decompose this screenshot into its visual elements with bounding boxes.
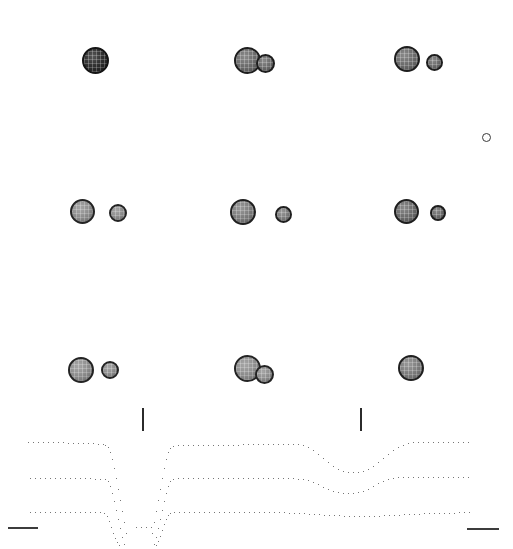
trace-dot xyxy=(116,510,117,511)
particle-sphere xyxy=(394,46,420,72)
particle-sphere xyxy=(394,199,419,224)
trace-dot xyxy=(408,477,409,478)
trace-dot xyxy=(178,478,179,479)
trace-dot xyxy=(164,524,165,525)
trace-dot xyxy=(459,512,460,513)
trace-dot xyxy=(83,443,84,444)
trace-dot xyxy=(398,477,399,478)
trace-dot xyxy=(279,512,280,513)
particle-sphere xyxy=(68,357,94,383)
trace-dot xyxy=(274,512,275,513)
trace-dot xyxy=(30,512,31,513)
trace-dot xyxy=(443,442,444,443)
trace-dot xyxy=(160,519,161,520)
trace-dot xyxy=(374,516,375,517)
trace-dot xyxy=(115,538,116,539)
trace-dot xyxy=(108,447,109,448)
trace-dot xyxy=(458,442,459,443)
trace-dot xyxy=(239,512,240,513)
trace-dot xyxy=(444,513,445,514)
trace-dot xyxy=(233,478,234,479)
trace-dot xyxy=(324,515,325,516)
trace-dot xyxy=(253,478,254,479)
trace-dot xyxy=(124,522,125,523)
trace-dot xyxy=(112,493,113,494)
trace-dot xyxy=(166,519,167,520)
trace-dot xyxy=(168,515,169,516)
trace-dot xyxy=(124,544,125,545)
trace-dot xyxy=(278,444,279,445)
trace-dot xyxy=(100,512,101,513)
particle-sphere xyxy=(234,47,261,74)
trace-dot xyxy=(166,459,167,460)
trace-dot xyxy=(60,512,61,513)
trace-dot xyxy=(268,478,269,479)
trace-dot xyxy=(75,512,76,513)
trace-dot xyxy=(170,513,171,514)
trace-dot xyxy=(358,492,359,493)
trace-dot xyxy=(289,513,290,514)
trace-dot xyxy=(448,442,449,443)
trace-dot xyxy=(233,445,234,446)
trace-dot xyxy=(105,445,106,446)
trace-dot xyxy=(314,514,315,515)
trace-dot xyxy=(244,512,245,513)
trace-dot xyxy=(423,442,424,443)
trace-dot xyxy=(160,489,161,490)
trace-dot xyxy=(65,512,66,513)
trace-dot xyxy=(111,527,112,528)
trace-dot xyxy=(368,469,369,470)
trace-dot xyxy=(424,513,425,514)
trace-dot xyxy=(229,512,230,513)
trace-dot xyxy=(353,493,354,494)
particle-sphere xyxy=(234,355,261,382)
particle-sphere xyxy=(230,199,256,225)
trace-dot xyxy=(168,486,169,487)
trace-dot xyxy=(55,512,56,513)
trace-dot xyxy=(408,443,409,444)
trace-dot xyxy=(162,530,163,531)
trace-dot xyxy=(373,486,374,487)
trace-dot xyxy=(369,516,370,517)
trace-dot xyxy=(263,478,264,479)
trace-dot xyxy=(118,519,119,520)
trace-dot xyxy=(156,537,157,538)
trace-dot xyxy=(418,477,419,478)
trace-dot xyxy=(188,445,189,446)
trace-dot xyxy=(303,479,304,480)
trace-dot xyxy=(288,478,289,479)
trace-dot xyxy=(298,479,299,480)
trace-dot xyxy=(158,541,159,542)
trace-dot xyxy=(454,513,455,514)
trace-dot xyxy=(136,527,137,528)
trace-dot xyxy=(339,515,340,516)
annotations-layer xyxy=(0,0,513,549)
trace-dot xyxy=(68,443,69,444)
trace-dot xyxy=(443,477,444,478)
trace-dot xyxy=(433,477,434,478)
trace-dot xyxy=(208,478,209,479)
trace-dot xyxy=(359,516,360,517)
trace-dot xyxy=(103,444,104,445)
axis-tick-mark xyxy=(360,408,362,431)
particle-sphere xyxy=(398,355,424,381)
trace-dot xyxy=(353,472,354,473)
trace-dot xyxy=(268,444,269,445)
trace-dot xyxy=(238,478,239,479)
reference-circle-marker xyxy=(482,133,491,142)
trace-dot xyxy=(329,515,330,516)
particle-sphere xyxy=(430,205,446,221)
trace-dot xyxy=(104,513,105,514)
trace-dot xyxy=(158,528,159,529)
trace-dot xyxy=(113,533,114,534)
trace-dot xyxy=(174,512,175,513)
trace-dot xyxy=(105,479,106,480)
trace-dot xyxy=(219,512,220,513)
trace-dot xyxy=(228,445,229,446)
trace-dot xyxy=(308,447,309,448)
trace-dot xyxy=(156,511,157,512)
trace-dot xyxy=(338,469,339,470)
trace-dot xyxy=(328,462,329,463)
trace-dot xyxy=(338,492,339,493)
trace-dot xyxy=(404,514,405,515)
